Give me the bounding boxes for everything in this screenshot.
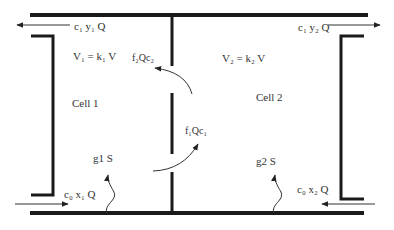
exchange-2-to-1-arrow [155,68,192,94]
exchange-1-to-2-arrow [153,144,198,171]
source-1-arrow [106,175,114,213]
cell1-volume: V₁ = k₁ V [73,50,116,62]
two-cell-diagram: c₁ y₁ Q c₁ y₂ Q V₁ = k₁ V V₂ = k₂ V f₂Qc… [0,0,394,230]
exchange-1-to-2-label: f₁Qc₁ [185,125,207,136]
exchange-2-to-1-label: f₂Qc₂ [132,52,154,63]
source-2-label: g2 S [256,155,276,167]
source-1-label: g1 S [93,152,113,164]
inflow-right-label: c₀ x₂ Q [297,183,329,195]
inflow-left-label: c₀ x₁ Q [64,188,96,200]
right-bracket [341,36,364,199]
source-2-arrow [273,175,281,213]
cell1-label: Cell 1 [72,97,99,109]
outflow-right-label: c₁ y₂ Q [298,21,330,33]
cell2-volume: V₂ = k₂ V [222,52,265,64]
left-bracket [31,36,53,195]
cell2-label: Cell 2 [256,91,283,103]
outflow-left-label: c₁ y₁ Q [74,20,106,32]
